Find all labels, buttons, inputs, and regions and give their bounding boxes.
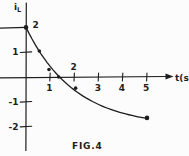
curve-points-layer <box>24 25 150 120</box>
y-tick <box>20 102 31 103</box>
curve-point-dot <box>47 68 51 72</box>
y-tick-label: -2 <box>9 122 19 132</box>
x-tick-label: 1 <box>46 83 52 93</box>
curve-point-dot <box>24 25 29 30</box>
x-tick-label: 5 <box>143 83 149 93</box>
curve-point-dot <box>74 86 78 90</box>
current-curve-layer <box>26 27 147 118</box>
figure-caption: FIG.4 <box>72 141 103 151</box>
y-axis-label-subscript: L <box>17 6 21 14</box>
y-tick <box>20 52 31 53</box>
initial-level-guide-line <box>0 27 26 28</box>
figure-canvas: 1234521-1-2 iL t(s) FIG.4 <box>0 0 189 156</box>
curve-point-dot <box>145 116 150 121</box>
curve-point-dot <box>57 75 61 79</box>
y-tick-label: -1 <box>9 97 19 107</box>
x-tick-label: 2 <box>70 62 76 72</box>
y-tick <box>20 126 31 127</box>
x-axis-arrowhead-icon <box>166 73 174 79</box>
x-axis-label: t(s) <box>175 73 189 83</box>
curve-point-dot <box>38 49 42 53</box>
y-tick-label: 1 <box>12 47 18 57</box>
inductor-current-curve <box>26 27 147 118</box>
x-axis-line <box>0 77 167 78</box>
x-tick-label: 3 <box>95 83 101 93</box>
y-axis-label: iL <box>14 2 21 14</box>
y-tick-label: 2 <box>33 20 39 30</box>
x-tick-label: 4 <box>119 83 125 93</box>
